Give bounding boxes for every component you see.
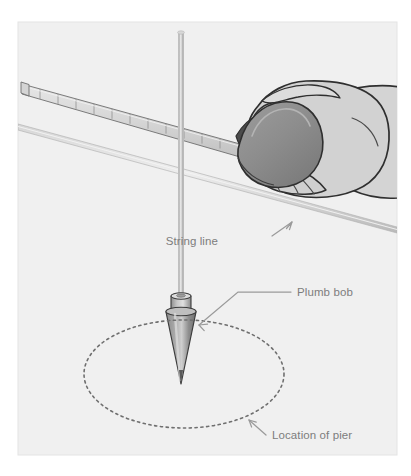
- label-location-of-pier: Location of pier: [272, 429, 352, 441]
- label-string-line: String line: [166, 235, 218, 247]
- figure-canvas: String line Plumb bob Location of pier: [0, 0, 411, 476]
- plumb-bob-string: [178, 31, 185, 294]
- illustration-figure: String line Plumb bob Location of pier: [0, 0, 411, 476]
- label-plumb-bob: Plumb bob: [297, 286, 353, 298]
